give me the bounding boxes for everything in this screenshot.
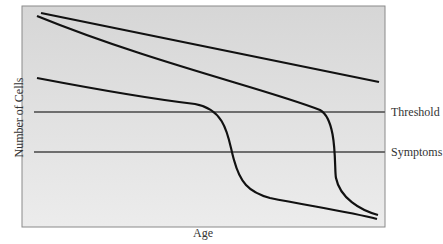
cell-decline-diagram [0, 0, 443, 244]
y-axis-label: Number of Cells [12, 73, 27, 163]
threshold-label: Threshold [391, 105, 440, 120]
symptoms-label: Symptoms [391, 145, 442, 160]
plot-area [22, 6, 385, 227]
x-axis-label: Age [193, 226, 213, 241]
